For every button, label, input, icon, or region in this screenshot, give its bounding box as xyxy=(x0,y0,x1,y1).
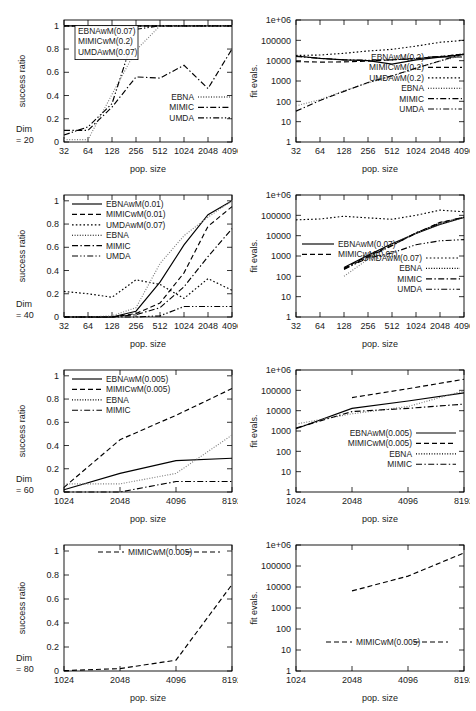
y-tick-label: 10000 xyxy=(266,56,291,66)
x-tick-label: 2048 xyxy=(430,146,450,156)
legend-label: EBNAwM(0.01) xyxy=(106,199,164,209)
legend-label: MIMICwM(0.2) xyxy=(369,62,424,72)
y-tick-label: 0.6 xyxy=(46,417,59,427)
y-axis-label: fit evals. xyxy=(249,64,259,97)
legend-label: UMDA xyxy=(397,284,422,294)
x-axis-label: pop. size xyxy=(130,339,166,349)
x-tick-label: 1024 xyxy=(54,675,74,685)
panel-row4-evals: 1101001000100001000001e+0610242048409681… xyxy=(244,533,470,705)
y-tick-label: 100000 xyxy=(261,36,291,46)
y-axis-label: fit evals. xyxy=(249,239,259,272)
legend-label: EBNA xyxy=(401,83,424,93)
y-tick-label: 1e+06 xyxy=(266,540,291,550)
plot-row2-success: 00.20.40.60.813264128256512102420484096s… xyxy=(12,183,238,351)
y-tick-label: 1 xyxy=(54,546,59,556)
y-axis-label: success ratio xyxy=(17,230,27,283)
x-tick-label: 1024 xyxy=(286,675,306,685)
y-tick-label: 0.2 xyxy=(46,289,59,299)
x-tick-label: 512 xyxy=(152,146,167,156)
series-EBNAwM(0.005) xyxy=(296,393,464,429)
x-tick-label: 2048 xyxy=(110,675,130,685)
legend-label: MIMICwM(0.01) xyxy=(106,209,166,219)
x-tick-label: 64 xyxy=(83,146,93,156)
x-tick-label: 4096 xyxy=(454,146,470,156)
x-tick-label: 64 xyxy=(83,321,93,331)
x-tick-label: 2048 xyxy=(198,146,218,156)
panel-row1-evals: 1101001000100001000001e+0632641282565121… xyxy=(244,8,470,176)
x-tick-label: 32 xyxy=(291,146,301,156)
y-tick-label: 100000 xyxy=(261,211,291,221)
legend-label: EBNAwM(0.2) xyxy=(371,52,424,62)
legend-label: MIMICwM(0.005) xyxy=(348,438,412,448)
x-tick-label: 8192 xyxy=(222,496,238,506)
plot-row4-evals: 1101001000100001000001e+0610242048409681… xyxy=(244,533,470,705)
x-tick-label: 64 xyxy=(315,146,325,156)
series-MIMICwM(0.005) xyxy=(352,553,464,591)
y-tick-label: 0.4 xyxy=(46,91,59,101)
legend-label: EBNA xyxy=(106,230,129,240)
y-axis-label: success ratio xyxy=(17,405,27,458)
x-tick-label: 256 xyxy=(360,321,375,331)
y-tick-label: 0.8 xyxy=(46,570,59,580)
dim-label-line1: Dim xyxy=(16,653,32,663)
legend-label: MIMIC xyxy=(399,94,424,104)
plot-row3-success: 00.20.40.60.811024204840968192success ra… xyxy=(12,358,238,526)
series-MIMIC xyxy=(64,482,232,492)
y-tick-label: 0.2 xyxy=(46,114,59,124)
series-UMDAwM(0.07) xyxy=(64,279,232,299)
y-tick-label: 1e+06 xyxy=(266,190,291,200)
y-tick-label: 0.4 xyxy=(46,441,59,451)
x-tick-label: 4096 xyxy=(398,675,418,685)
panel-row4-success: 00.20.40.60.811024204840968192success ra… xyxy=(12,533,238,705)
y-axis-label: fit evals. xyxy=(249,591,259,624)
dim-label-line2: = 60 xyxy=(16,485,34,495)
series-MIMICwM(0.005) xyxy=(64,585,232,671)
legend-label: EBNA xyxy=(389,449,412,459)
x-tick-label: 512 xyxy=(152,321,167,331)
dim-label-line1: Dim xyxy=(16,474,32,484)
x-tick-label: 128 xyxy=(336,321,351,331)
y-tick-label: 1e+06 xyxy=(266,15,291,25)
x-tick-label: 4096 xyxy=(222,146,238,156)
y-tick-label: 1000 xyxy=(271,76,291,86)
y-tick-label: 100 xyxy=(276,272,291,282)
x-tick-label: 2048 xyxy=(342,675,362,685)
y-tick-label: 0.6 xyxy=(46,67,59,77)
legend-label: UMDA xyxy=(106,251,131,261)
y-tick-label: 1000 xyxy=(271,426,291,436)
y-tick-label: 10 xyxy=(281,467,291,477)
legend-label: EBNAwM(0.005) xyxy=(350,428,412,438)
y-tick-label: 0.4 xyxy=(46,266,59,276)
y-tick-label: 0.4 xyxy=(46,618,59,628)
series-MIMIC xyxy=(64,229,232,317)
y-axis-label: success ratio xyxy=(17,55,27,108)
legend-label: EBNA xyxy=(106,395,129,405)
y-tick-label: 1 xyxy=(54,21,59,31)
x-tick-label: 512 xyxy=(384,321,399,331)
x-axis-label: pop. size xyxy=(362,514,398,524)
legend-label: EBNAwM(0.005) xyxy=(106,374,168,384)
y-tick-label: 0.2 xyxy=(46,464,59,474)
y-tick-label: 1000 xyxy=(271,603,291,613)
x-tick-label: 1024 xyxy=(286,496,306,506)
x-axis-label: pop. size xyxy=(362,693,398,703)
y-tick-label: 10000 xyxy=(266,582,291,592)
legend-label: MIMICwM(0.2) xyxy=(78,36,133,46)
legend-label: UMDA xyxy=(399,104,424,114)
x-tick-label: 2048 xyxy=(110,496,130,506)
dim-label-line2: = 80 xyxy=(16,664,34,674)
plot-row1-evals: 1101001000100001000001e+0632641282565121… xyxy=(244,8,470,176)
x-tick-label: 1024 xyxy=(406,146,426,156)
y-tick-label: 10 xyxy=(281,117,291,127)
series-UMDA xyxy=(64,307,232,317)
legend-label: MIMICwM(0.005) xyxy=(106,384,170,394)
y-tick-label: 1000 xyxy=(271,251,291,261)
x-tick-label: 1024 xyxy=(174,321,194,331)
x-tick-label: 4096 xyxy=(166,496,186,506)
y-tick-label: 1e+06 xyxy=(266,365,291,375)
x-tick-label: 8192 xyxy=(454,496,470,506)
y-tick-label: 10 xyxy=(281,645,291,655)
x-tick-label: 4096 xyxy=(454,321,470,331)
x-tick-label: 1024 xyxy=(406,321,426,331)
x-tick-label: 1024 xyxy=(54,496,74,506)
